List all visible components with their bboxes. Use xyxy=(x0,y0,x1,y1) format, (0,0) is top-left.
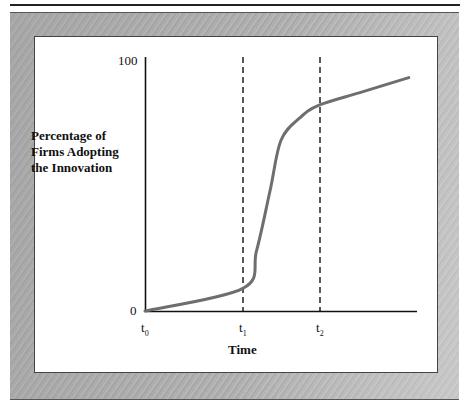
y-axis-label-line-3: the Innovation xyxy=(31,160,141,176)
x-tick-t1-sub: 1 xyxy=(243,329,247,338)
x-tick-t2-sub: 2 xyxy=(320,329,324,338)
y-tick-100: 100 xyxy=(118,53,138,69)
y-tick-0: 0 xyxy=(130,303,137,319)
x-axis-label: Time xyxy=(228,342,257,358)
x-tick-t0-sub: 0 xyxy=(145,329,149,338)
x-tick-t0: t0 xyxy=(141,320,149,338)
y-axis-label: Percentage of Firms Adopting the Innovat… xyxy=(31,128,141,176)
x-tick-t1: t1 xyxy=(239,320,247,338)
y-axis-label-line-2: Firms Adopting xyxy=(31,144,141,160)
x-tick-t2: t2 xyxy=(316,320,324,338)
y-axis-label-line-1: Percentage of xyxy=(31,128,141,144)
adoption-curve xyxy=(145,78,409,311)
